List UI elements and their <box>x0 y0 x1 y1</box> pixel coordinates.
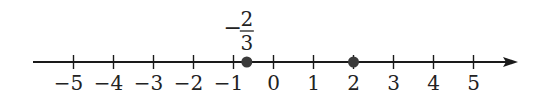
point-annotations: −23 <box>224 7 254 55</box>
tick-label: −4 <box>94 71 123 95</box>
number-line-diagram: −5−4−3−2−1012345 −23 <box>0 0 539 99</box>
tick-label: −5 <box>54 71 83 95</box>
number-line-axis <box>33 57 518 67</box>
point-marker <box>348 57 359 68</box>
tick-label: −1 <box>214 71 243 95</box>
tick-label: 2 <box>347 71 360 95</box>
fraction-sign: − <box>224 15 242 40</box>
tick-label: −3 <box>134 71 163 95</box>
tick-label: −2 <box>174 71 203 95</box>
tick-label: 0 <box>267 71 280 95</box>
fraction-denominator: 3 <box>240 31 253 55</box>
tick-label: 4 <box>427 71 440 95</box>
fraction-numerator: 2 <box>240 7 253 31</box>
tick-label: 3 <box>387 71 400 95</box>
tick-label: 5 <box>467 71 480 95</box>
tick-label: 1 <box>307 71 320 95</box>
point-marker <box>241 57 252 68</box>
tick-labels: −5−4−3−2−1012345 <box>54 71 480 95</box>
